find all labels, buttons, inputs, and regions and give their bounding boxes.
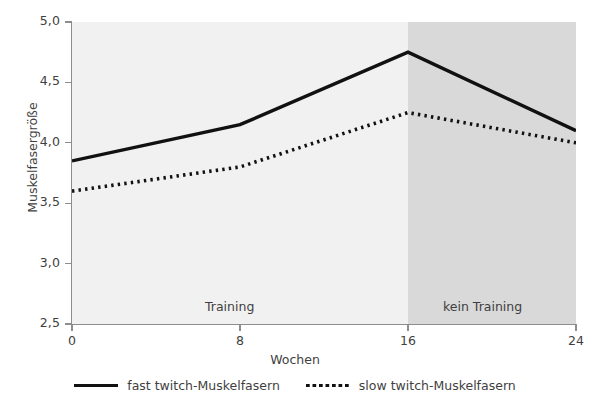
x-tick-mark (239, 324, 240, 331)
chart-figure: Training kein Training 2,53,03,54,04,55,… (0, 0, 590, 407)
y-axis-line (71, 22, 72, 325)
y-tick-mark (65, 203, 72, 204)
y-tick-mark (65, 142, 72, 143)
x-tick-label: 24 (556, 333, 590, 348)
y-tick-label: 5,0 (0, 13, 60, 28)
series-line-slow-twitch (72, 113, 576, 192)
region-label-no-training: kein Training (443, 299, 522, 314)
x-tick-mark (71, 324, 72, 331)
plot-area (72, 22, 576, 324)
x-tick-label: 8 (220, 333, 260, 348)
legend-label-fast-twitch: fast twitch-Muskelfasern (127, 378, 280, 393)
legend-item-fast-twitch: fast twitch-Muskelfasern (74, 378, 280, 393)
y-tick-mark (65, 82, 72, 83)
y-axis-title: Muskelfasergröße (25, 58, 40, 258)
legend-item-slow-twitch: slow twitch-Muskelfasern (306, 378, 516, 393)
legend-label-slow-twitch: slow twitch-Muskelfasern (359, 378, 516, 393)
x-tick-label: 0 (52, 333, 92, 348)
x-tick-mark (575, 324, 576, 331)
data-lines-layer (72, 22, 576, 324)
y-tick-mark (65, 21, 72, 22)
y-tick-label: 2,5 (0, 315, 60, 330)
legend-swatch-solid-line-icon (74, 384, 118, 387)
y-tick-mark (65, 263, 72, 264)
cropped-header-text (0, 0, 590, 4)
x-axis-title: Wochen (0, 352, 590, 367)
region-label-training: Training (205, 299, 254, 314)
legend-swatch-dotted-line-icon (306, 384, 350, 387)
x-tick-label: 16 (388, 333, 428, 348)
x-axis-line (71, 324, 576, 325)
x-tick-mark (407, 324, 408, 331)
chart-legend: fast twitch-Muskelfasern slow twitch-Mus… (0, 378, 590, 393)
series-line-fast-twitch (72, 52, 576, 161)
